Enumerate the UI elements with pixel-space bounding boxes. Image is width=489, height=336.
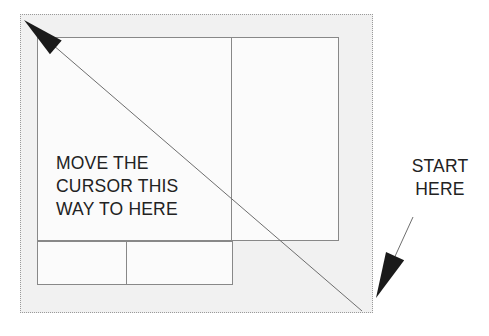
lower-left-rectangle[interactable] xyxy=(37,241,233,285)
start-here-label: START HERE xyxy=(396,155,484,201)
start-here-leader-line xyxy=(394,217,413,258)
instruction-text: MOVE THE CURSOR THIS WAY TO HERE xyxy=(56,152,178,221)
upper-vertical-divider xyxy=(231,37,232,241)
screenshot-stage: MOVE THE CURSOR THIS WAY TO HERE START H… xyxy=(0,0,489,336)
start-here-arrowhead xyxy=(376,252,404,298)
lower-vertical-divider xyxy=(126,241,127,285)
